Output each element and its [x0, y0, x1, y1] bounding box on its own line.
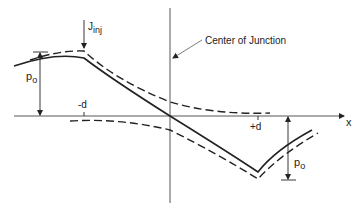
x-axis-label: x: [346, 116, 352, 128]
solid-curve: [14, 56, 312, 172]
right-amplitude-label: po: [294, 156, 305, 171]
center-of-junction-label: Center of Junction: [205, 35, 286, 46]
minus-d-label: -d: [78, 99, 87, 110]
injection-current-label: Jinj: [88, 21, 102, 35]
center-leader: [173, 40, 202, 58]
plus-d-label: +d: [250, 121, 261, 132]
junction-diagram: x Center of Junction Jinj po -d +d po: [0, 0, 360, 213]
left-amplitude-label: po: [26, 70, 37, 85]
